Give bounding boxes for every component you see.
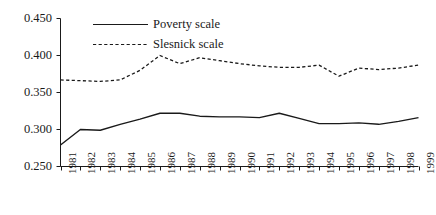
y-tick-label: 0.350 (0, 85, 52, 100)
x-tick-label: 1991 (264, 152, 276, 174)
x-tick-label: 1989 (225, 152, 237, 174)
series-line-poverty-scale (61, 113, 419, 145)
y-tick-marks (57, 19, 61, 167)
x-tick-label: 1988 (205, 152, 217, 174)
y-tick-label: 0.450 (0, 11, 52, 26)
y-tick-label: 0.250 (0, 159, 52, 174)
series-line-slesnick-scale (61, 56, 419, 82)
data-series-layer (61, 56, 419, 146)
x-tick-label: 1983 (105, 152, 117, 174)
x-tick-label: 1999 (424, 152, 436, 174)
x-tick-label: 1990 (245, 152, 257, 174)
y-tick-label: 0.300 (0, 122, 52, 137)
x-tick-label: 1981 (66, 152, 78, 174)
x-tick-label: 1997 (384, 152, 396, 174)
legend-label-slesnick-scale: Slesnick scale (153, 37, 223, 52)
x-tick-label: 1992 (284, 152, 296, 174)
x-tick-label: 1994 (324, 152, 336, 174)
x-tick-label: 1995 (344, 152, 356, 174)
x-tick-label: 1984 (125, 152, 137, 174)
x-tick-label: 1987 (185, 152, 197, 174)
x-tick-label: 1986 (165, 152, 177, 174)
legend-label-poverty-scale: Poverty scale (153, 17, 220, 32)
x-tick-label: 1998 (404, 152, 416, 174)
x-tick-label: 1993 (304, 152, 316, 174)
x-tick-label: 1982 (85, 152, 97, 174)
axes (61, 19, 419, 167)
y-tick-label: 0.400 (0, 48, 52, 63)
legend-swatches (93, 25, 148, 45)
x-tick-label: 1996 (364, 152, 376, 174)
x-tick-label: 1985 (145, 152, 157, 174)
